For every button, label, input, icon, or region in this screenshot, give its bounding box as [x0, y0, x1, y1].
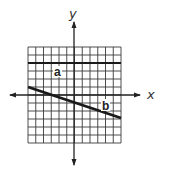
x-axis-label: x: [146, 87, 155, 102]
line-a-label: a: [54, 65, 61, 79]
line-b-label: b: [102, 99, 109, 113]
y-axis-label: y: [68, 6, 77, 21]
coordinate-plane: a b y x: [0, 0, 169, 173]
